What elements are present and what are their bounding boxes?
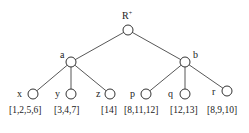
- leaf-r-circle: [222, 86, 232, 96]
- leaf-z: z [14]: [96, 88, 117, 115]
- edge-b-r: [185, 62, 227, 91]
- leaf-x-set: [1,2,5,6]: [9, 105, 41, 115]
- leaf-x-label: x: [17, 88, 22, 99]
- node-b: b: [180, 49, 198, 67]
- leaf-z-circle: [105, 89, 115, 99]
- tree-diagram: R+ a b x [1,2,5,6] y [3,4,7] z [14] p [8…: [0, 0, 249, 133]
- leaf-z-set: [14]: [101, 105, 117, 115]
- leaf-y-set: [3,4,7]: [54, 105, 79, 115]
- leaf-p: p [8,11,12]: [124, 88, 158, 115]
- edge-root-a: [71, 30, 128, 62]
- leaf-p-circle: [141, 89, 151, 99]
- leaf-q-label: q: [168, 88, 173, 99]
- leaf-q: q [12,13]: [168, 88, 198, 115]
- edge-root-b: [128, 30, 185, 62]
- leaf-y-label: y: [55, 88, 60, 99]
- leaf-x-circle: [28, 89, 38, 99]
- node-b-circle: [180, 57, 190, 67]
- node-a: a: [60, 49, 76, 67]
- leaf-q-set: [12,13]: [170, 105, 198, 115]
- leaf-r: r [8,9,10]: [207, 86, 237, 115]
- leaf-y-circle: [66, 89, 76, 99]
- leaf-r-label: r: [212, 86, 216, 97]
- node-b-label: b: [193, 49, 198, 60]
- edge-a-x: [33, 62, 71, 94]
- edges: [33, 30, 227, 94]
- leaf-y: y [3,4,7]: [54, 88, 79, 115]
- leaf-p-set: [8,11,12]: [124, 105, 158, 115]
- node-a-circle: [66, 57, 76, 67]
- node-root-circle: [123, 25, 133, 35]
- leaf-p-label: p: [130, 88, 135, 99]
- node-root: R+: [122, 10, 133, 35]
- edge-b-p: [146, 62, 185, 94]
- leaf-r-set: [8,9,10]: [207, 105, 237, 115]
- leaf-x: x [1,2,5,6]: [9, 88, 41, 115]
- leaf-z-label: z: [96, 88, 101, 99]
- node-a-label: a: [60, 49, 65, 60]
- leaf-q-circle: [180, 89, 190, 99]
- edge-a-z: [71, 62, 110, 94]
- node-root-label: R+: [122, 10, 133, 21]
